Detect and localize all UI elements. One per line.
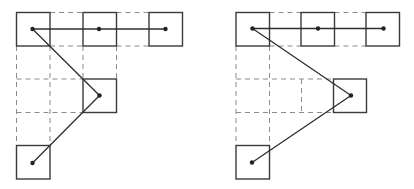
node-dot — [30, 27, 34, 31]
diagram-canvas — [0, 0, 414, 189]
node-dot — [349, 93, 353, 97]
path-link — [253, 29, 352, 96]
path-link — [33, 96, 100, 164]
grid-path-diagram — [0, 0, 414, 189]
node-dot — [97, 93, 101, 97]
right-panel — [236, 13, 400, 180]
node-dot — [163, 27, 167, 31]
left-panel — [17, 13, 183, 180]
node-dot — [97, 27, 101, 31]
node-dot — [381, 26, 385, 30]
path-link — [33, 29, 100, 96]
path-link — [252, 96, 351, 163]
node-dot — [250, 26, 254, 30]
node-dot — [30, 161, 34, 165]
node-dot — [250, 160, 254, 164]
node-dot — [316, 26, 320, 30]
